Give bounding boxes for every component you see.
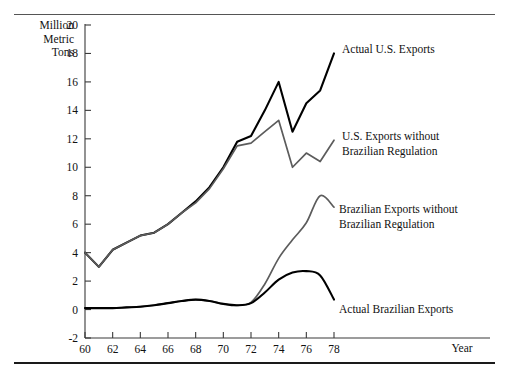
y-axis-tick-label: 6 bbox=[72, 218, 78, 230]
x-axis-tick-label: 72 bbox=[245, 343, 257, 355]
x-axis-tick-label: 78 bbox=[328, 343, 340, 355]
x-axis-tick-label: 70 bbox=[218, 343, 230, 355]
x-axis-tick-label: 66 bbox=[162, 343, 174, 355]
y-axis-tick-label: 2 bbox=[72, 275, 78, 287]
annotation-actual-us-exports: Actual U.S. Exports bbox=[342, 43, 435, 56]
annotation-us-exports-without-regulation: U.S. Exports without bbox=[342, 130, 440, 143]
y-axis-tick-label: 18 bbox=[67, 47, 79, 59]
x-axis-tick-label: 64 bbox=[135, 343, 147, 355]
y-axis-tick-label: 14 bbox=[67, 104, 79, 116]
annotation-us-exports-without-regulation: Brazilian Regulation bbox=[342, 145, 438, 158]
y-axis-tick-label: 8 bbox=[72, 190, 78, 202]
y-axis-tick-label: 16 bbox=[67, 76, 79, 88]
y-axis-tick-label: 12 bbox=[67, 133, 79, 145]
annotation-brazilian-exports-without-regulation: Brazilian Regulation bbox=[339, 218, 435, 231]
x-axis-tick-labels: 60626466687072747678 bbox=[79, 343, 340, 355]
series-line-brazilian-exports-without-brazilian-regulation bbox=[85, 195, 334, 308]
y-axis-tick-label: -2 bbox=[68, 332, 78, 344]
y-axis-tick-label: 0 bbox=[72, 304, 78, 316]
axes-group bbox=[85, 24, 490, 338]
x-axis-tick-label: 60 bbox=[79, 343, 91, 355]
series-line-actual-brazilian-exports bbox=[85, 271, 334, 308]
y-axis-tick-label: 10 bbox=[67, 161, 79, 173]
ticks-group bbox=[85, 25, 334, 338]
annotation-brazilian-exports-without-regulation: Brazilian Exports without bbox=[339, 203, 459, 216]
line-chart-plot: -202468101214161820 60626466687072747678… bbox=[0, 0, 509, 381]
annotation-actual-brazilian-exports: Actual Brazilian Exports bbox=[339, 303, 454, 316]
x-axis-tick-label: 74 bbox=[273, 343, 285, 355]
series-annotations-group: Actual U.S. ExportsU.S. Exports withoutB… bbox=[339, 43, 459, 316]
y-axis-tick-label: 20 bbox=[67, 19, 79, 31]
series-line-u-s-exports-without-brazilian-regulation bbox=[85, 120, 334, 267]
chart-figure: Million Metric Tons -202468101214161820 … bbox=[0, 0, 509, 381]
x-axis-title: Year bbox=[451, 342, 472, 354]
x-axis-tick-label: 68 bbox=[190, 343, 202, 355]
x-axis-tick-label: 62 bbox=[107, 343, 119, 355]
y-axis-tick-label: 4 bbox=[72, 247, 78, 259]
data-series-group bbox=[85, 53, 334, 308]
y-axis-tick-labels: -202468101214161820 bbox=[67, 19, 79, 344]
x-axis-tick-label: 76 bbox=[301, 343, 313, 355]
